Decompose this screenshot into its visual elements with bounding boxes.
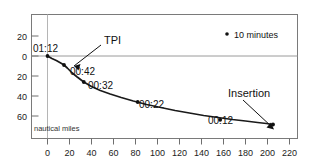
time-label-mid-2: 00:22 — [139, 99, 164, 110]
x-tick-label: 0 — [45, 148, 50, 158]
data-point-marker — [62, 63, 66, 67]
trajectory-chart: 20 0 20 40 60 0 20 40 60 80 — [0, 0, 314, 168]
y-tick-label: 60 — [17, 112, 27, 122]
data-point-marker — [82, 80, 86, 84]
x-tick-label: 40 — [86, 148, 96, 158]
x-tick-label: 200 — [260, 148, 275, 158]
data-point-marker — [46, 54, 50, 58]
time-label-start: 01:12 — [33, 43, 58, 54]
time-label-late: 00:12 — [208, 115, 233, 126]
x-tick-label: 160 — [216, 148, 231, 158]
x-tick-label: 220 — [282, 148, 297, 158]
tpi-label: TPI — [104, 34, 121, 46]
x-tick-label: 140 — [194, 148, 209, 158]
x-tick-label: 20 — [64, 148, 74, 158]
y-tick-label: 20 — [17, 72, 27, 82]
x-tick-label: 80 — [130, 148, 140, 158]
chart-container: 20 0 20 40 60 0 20 40 60 80 — [0, 0, 314, 168]
x-tick-label: 100 — [150, 148, 165, 158]
time-label-mid-1: 00:32 — [88, 80, 113, 91]
y-axis-tick-labels: 20 0 20 40 60 — [17, 32, 27, 122]
time-label-tpi: 00:42 — [70, 66, 95, 77]
x-tick-label: 120 — [172, 148, 187, 158]
x-axis-ticks — [48, 139, 290, 145]
y-tick-label: 0 — [22, 52, 27, 62]
y-tick-label: 20 — [17, 32, 27, 42]
x-axis-tick-labels: 0 20 40 60 80 100 120 140 160 180 200 22… — [45, 148, 297, 158]
x-tick-label: 60 — [108, 148, 118, 158]
y-tick-label: 40 — [17, 92, 27, 102]
legend-dot-icon — [225, 32, 229, 36]
legend: 10 minutes — [225, 30, 278, 40]
x-axis-unit-note: nautical miles — [34, 124, 80, 133]
insertion-label: Insertion — [228, 87, 270, 99]
x-tick-label: 180 — [238, 148, 253, 158]
legend-label: 10 minutes — [234, 30, 279, 40]
